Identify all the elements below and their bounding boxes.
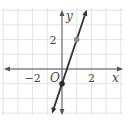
y-axis-arrow-down-icon xyxy=(60,109,65,115)
series xyxy=(51,10,87,114)
series-line xyxy=(53,12,86,112)
data-point xyxy=(74,37,80,43)
line-arrow-up-icon xyxy=(82,10,87,17)
x-axis-label: x xyxy=(112,71,119,85)
line-arrow-down-icon xyxy=(51,107,56,114)
x-axis-arrow-left-icon xyxy=(4,67,10,72)
y-axis-label: y xyxy=(65,9,73,23)
x-tick-label: 2 xyxy=(88,72,95,85)
coordinate-plane: −222 x y O xyxy=(0,0,129,121)
origin-label: O xyxy=(50,71,60,85)
y-tick-label: 2 xyxy=(50,34,57,47)
data-point xyxy=(59,81,65,87)
x-tick-label: −2 xyxy=(24,72,40,85)
y-axis-arrow-up-icon xyxy=(60,10,65,16)
axes xyxy=(4,10,123,115)
